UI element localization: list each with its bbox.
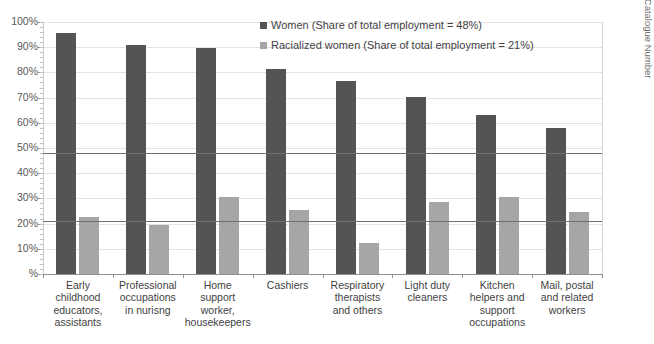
- x-axis-category-label-line: support: [183, 291, 253, 303]
- x-axis-category-label-line: Professional: [113, 279, 183, 291]
- x-axis-category-label-line: therapists: [323, 291, 393, 303]
- x-axis-category-label-line: Cashiers: [253, 279, 323, 291]
- source-note-line-1: Statistics Canada (2016). Census, Catalo…: [642, 0, 654, 92]
- bar-women: [546, 128, 566, 274]
- plot-area: [43, 22, 602, 274]
- x-axis-category-label-line: worker,: [183, 304, 253, 316]
- x-axis-category-label-line: Mail, postal: [532, 279, 602, 291]
- bar-women: [476, 115, 496, 274]
- source-note: Statistics Canada (2016). Census, Catalo…: [630, 0, 654, 92]
- bar-group: [253, 22, 323, 274]
- plot-right-border: [602, 22, 603, 275]
- bar-women: [266, 69, 286, 274]
- source-note-line-2: 98-400-X2016356.: [630, 0, 642, 92]
- x-axis-category-label-line: occupations: [113, 291, 183, 303]
- y-axis-tick-label: 50%: [0, 142, 38, 152]
- chart-legend: Women (Share of total employment = 48%) …: [260, 19, 534, 59]
- bar-women: [336, 81, 356, 274]
- legend-item-women: Women (Share of total employment = 48%): [260, 19, 534, 32]
- x-axis-category-label: Cashiers: [253, 279, 323, 291]
- x-axis-category-label-line: and others: [323, 304, 393, 316]
- y-axis-tick-label: 30%: [0, 192, 38, 202]
- x-axis-category-label-line: assistants: [43, 316, 113, 328]
- x-axis-category-label-line: educators,: [43, 304, 113, 316]
- bar-racialized-women: [359, 243, 379, 275]
- y-axis-tick-label: 80%: [0, 66, 38, 76]
- x-axis-category-label: Earlychildhoodeducators,assistants: [43, 279, 113, 329]
- chart-title-strip: [60, 0, 360, 10]
- x-axis-category-label-line: and related: [532, 291, 602, 303]
- bar-racialized-women: [289, 210, 309, 274]
- x-axis-category-label-line: cleaners: [392, 291, 462, 303]
- x-axis-category-label-line: childhood: [43, 291, 113, 303]
- bar-racialized-women: [79, 217, 99, 274]
- x-axis-category-label-line: in nurisng: [113, 304, 183, 316]
- bar-racialized-women: [499, 197, 519, 274]
- y-axis-tick-label: 100%: [0, 16, 38, 26]
- x-axis-category-label-line: support: [462, 304, 532, 316]
- y-axis-tick-label: 40%: [0, 167, 38, 177]
- y-axis-tick-label: 60%: [0, 117, 38, 127]
- reference-line: [43, 153, 602, 154]
- reference-line: [43, 221, 602, 222]
- x-axis-category-label: Respiratorytherapistsand others: [323, 279, 393, 316]
- x-axis-category-label-line: workers: [532, 304, 602, 316]
- y-axis-tick-label: 70%: [0, 92, 38, 102]
- x-axis-category-label: Light dutycleaners: [392, 279, 462, 304]
- y-axis-tick-label: 90%: [0, 41, 38, 51]
- bar-group: [113, 22, 183, 274]
- x-axis-category-label-line: occupations: [462, 316, 532, 328]
- legend-label-racialized-women: Racialized women (Share of total employm…: [271, 39, 534, 52]
- y-axis-line: [43, 22, 44, 275]
- legend-swatch-icon-women: [260, 22, 267, 29]
- y-axis-tick-label: 10%: [0, 243, 38, 253]
- bar-racialized-women: [149, 225, 169, 274]
- bar-racialized-women: [429, 202, 449, 274]
- y-axis-tick-label: 20%: [0, 218, 38, 228]
- bar-group: [323, 22, 393, 274]
- x-axis-category-label: Professionaloccupationsin nurisng: [113, 279, 183, 316]
- y-axis-tick-label: %: [0, 268, 38, 278]
- bar-group: [392, 22, 462, 274]
- x-axis-category-label-line: helpers and: [462, 291, 532, 303]
- legend-label-women: Women (Share of total employment = 48%): [271, 19, 482, 32]
- legend-swatch-icon-racialized-women: [260, 42, 267, 49]
- bar-women: [196, 48, 216, 274]
- bar-women: [126, 45, 146, 274]
- x-axis-category-label: Mail, postaland relatedworkers: [532, 279, 602, 316]
- x-axis-category-label-line: Kitchen: [462, 279, 532, 291]
- x-axis-category-label-line: Home: [183, 279, 253, 291]
- x-axis-category-label: Homesupportworker,housekeepers: [183, 279, 253, 329]
- legend-item-racialized-women: Racialized women (Share of total employm…: [260, 39, 534, 52]
- x-axis-category-label: Kitchenhelpers andsupportoccupations: [462, 279, 532, 329]
- bar-group: [183, 22, 253, 274]
- x-axis-line: [43, 274, 603, 275]
- bar-women: [406, 97, 426, 274]
- bar-racialized-women: [219, 197, 239, 274]
- bar-group: [532, 22, 602, 274]
- x-axis-category-label-line: Respiratory: [323, 279, 393, 291]
- x-axis-category-label-line: Early: [43, 279, 113, 291]
- bar-group: [43, 22, 113, 274]
- x-axis-category-label-line: Light duty: [392, 279, 462, 291]
- x-axis-category-label-line: housekeepers: [183, 316, 253, 328]
- bar-group: [462, 22, 532, 274]
